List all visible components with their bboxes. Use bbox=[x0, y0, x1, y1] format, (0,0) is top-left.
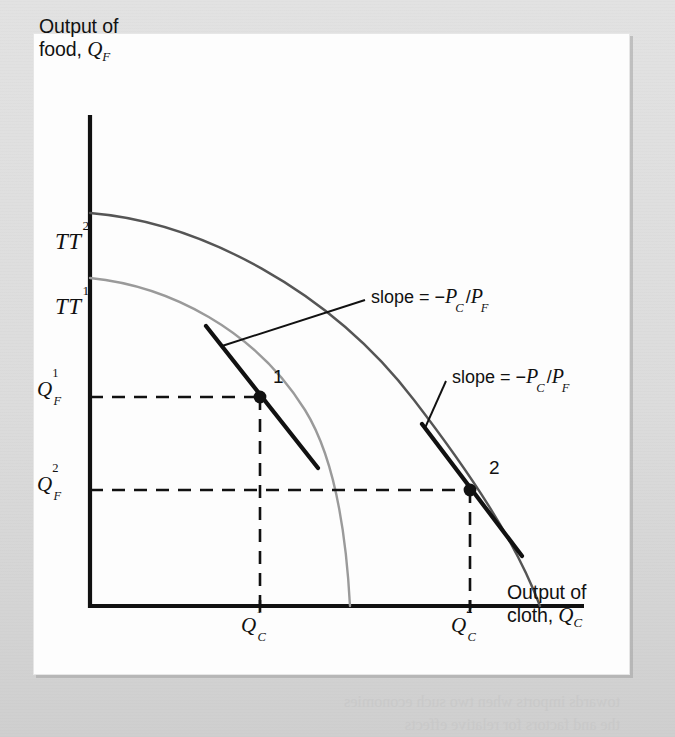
y-tick-label-qf2: Q2F bbox=[37, 472, 66, 500]
point-label-2: 2 bbox=[489, 457, 500, 479]
curve-label-tt1: TT1 bbox=[55, 293, 89, 320]
leader-line-slope-1 bbox=[222, 300, 365, 346]
curve-tt1 bbox=[90, 278, 350, 606]
y-axis-title: Output of food, QF bbox=[39, 15, 118, 68]
x-axis-title: Output of cloth, QC bbox=[507, 581, 586, 634]
x-tick-label-qc2: Q2C bbox=[451, 613, 481, 641]
data-point-2 bbox=[464, 484, 477, 497]
y-tick-label-qf1: Q1F bbox=[37, 377, 66, 405]
point-label-1: 1 bbox=[273, 366, 284, 388]
data-point-1 bbox=[254, 391, 267, 404]
guides-point-1 bbox=[90, 397, 260, 606]
axes bbox=[88, 115, 584, 608]
y-axis-variable: QF bbox=[87, 37, 110, 61]
x-tick-label-qc1: Q1C bbox=[241, 613, 271, 641]
curve-label-tt2: TT2 bbox=[55, 228, 89, 255]
slope-annotation-2: slope = −PC/PF bbox=[452, 365, 572, 392]
curve-tt2 bbox=[90, 213, 540, 606]
leader-line-slope-2 bbox=[425, 381, 446, 428]
x-axis-variable: QC bbox=[558, 603, 582, 627]
guides-point-2 bbox=[90, 490, 470, 606]
slope-annotation-1: slope = −PC/PF bbox=[371, 285, 491, 312]
